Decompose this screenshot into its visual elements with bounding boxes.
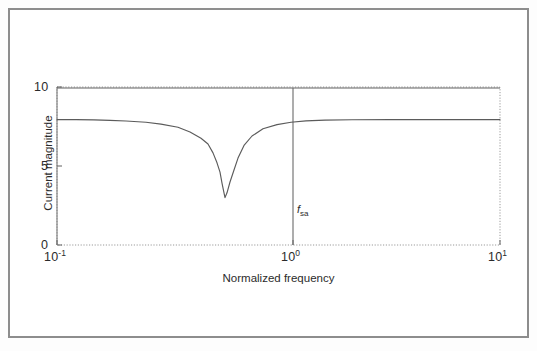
figure-container: 10 5 0 10-1 100 101 Current magnitude No…	[0, 0, 537, 351]
plot-box	[57, 87, 500, 245]
y-axis-label: Current magnitude	[42, 88, 54, 238]
x-tick-label-1e-1: 10-1	[44, 250, 66, 264]
fsa-annotation-label: fsa	[297, 203, 309, 215]
x-axis-label: Normalized frequency	[57, 272, 500, 284]
x-tick-exponent-left: -1	[58, 248, 66, 258]
x-tick-exponent-mid: 0	[295, 248, 300, 258]
x-tick-label-1e1: 101	[488, 250, 507, 264]
series-notch-response	[57, 120, 500, 198]
x-tick-exponent-right: 1	[502, 248, 507, 258]
x-tick-mantissa-left: 10	[44, 250, 58, 264]
x-tick-mantissa-right: 10	[488, 250, 502, 264]
fsa-subscript: sa	[300, 209, 308, 218]
x-tick-label-1e0: 100	[281, 250, 300, 264]
plot-canvas	[0, 0, 537, 351]
x-tick-mantissa-mid: 10	[281, 250, 295, 264]
